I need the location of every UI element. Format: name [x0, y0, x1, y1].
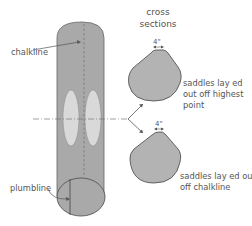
log-end	[57, 178, 105, 216]
cross-sections-title-line1: cross	[136, 7, 180, 17]
saddle-right	[85, 90, 101, 146]
cross-section-top	[129, 50, 182, 101]
top-section-caption-line2: out off highest	[183, 89, 243, 99]
cross-sections-title-line2: sections	[133, 19, 183, 29]
saddle-left	[63, 90, 79, 146]
top-section-caption-line1: saddles lay ed	[183, 78, 243, 88]
top-section-caption-line3: point	[183, 100, 204, 110]
bottom-section-dimension: 4"	[155, 119, 163, 129]
cross-section-bottom	[130, 132, 181, 183]
top-section-dimension: 4"	[153, 37, 161, 47]
bottom-section-caption-line2: off chalkline	[180, 182, 230, 192]
plumbline-label: plumbline	[10, 183, 51, 193]
chalkline-label: chalkline	[11, 47, 48, 57]
bottom-section-caption-line1: saddles lay ed out	[180, 171, 252, 181]
